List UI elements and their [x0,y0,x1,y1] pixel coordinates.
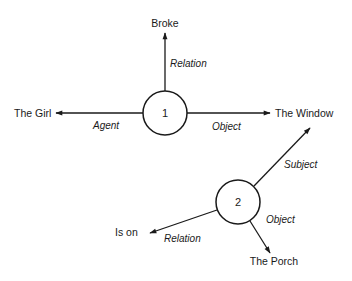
proposition-label-1: 1 [162,107,168,119]
edge-p2-object [250,221,270,253]
semantic-network-diagram: 1 2 Broke The Girl The Window Is on The … [0,0,352,281]
node-is-on: Is on [115,226,138,238]
node-the-window: The Window [275,107,334,119]
node-the-porch: The Porch [250,255,299,267]
proposition-label-2: 2 [235,196,241,208]
edge-p2-relation [150,210,217,233]
edge-label-p2-subject: Subject [284,159,319,170]
edge-label-p2-relation: Relation [164,233,201,244]
edge-label-p1-object: Object [212,121,242,132]
node-broke: Broke [151,17,179,29]
node-the-girl: The Girl [14,107,51,119]
edge-label-p2-object: Object [266,214,296,225]
edge-p2-subject [254,128,310,186]
edge-label-p1-agent: Agent [92,120,120,131]
edge-label-p1-relation: Relation [170,58,207,69]
